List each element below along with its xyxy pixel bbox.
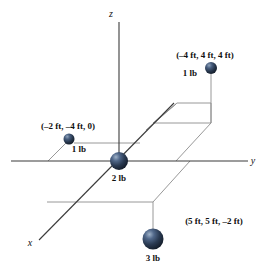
weight-label-left: 1 lb	[72, 144, 86, 154]
construction-line-diagonal-left	[48, 143, 66, 161]
coord-label-lower-right: (5 ft, 5 ft, –2 ft)	[185, 216, 243, 226]
sphere-origin	[110, 152, 128, 170]
sphere-lower-right	[143, 229, 164, 250]
weight-label-lower-right: 3 lb	[146, 253, 160, 263]
y-axis-label: y	[250, 155, 256, 166]
figure-root: z y x (–4 ft, 4 ft, 4 ft) 1 lb (–2 ft, –…	[0, 0, 280, 274]
x-axis-label: x	[27, 237, 33, 248]
weight-label-upper-right: 1 lb	[183, 68, 197, 78]
construction-line-diagonal-upper-right-down	[176, 123, 211, 161]
coord-label-left: (–2 ft, –4 ft, 0)	[41, 121, 95, 131]
sphere-left	[64, 134, 75, 145]
z-axis-label: z	[108, 8, 113, 19]
construction-line-diagonal-lower-right-up	[153, 161, 190, 202]
coordinate-diagram: z y x (–4 ft, 4 ft, 4 ft) 1 lb (–2 ft, –…	[0, 0, 280, 274]
coord-label-upper-right: (–4 ft, 4 ft, 4 ft)	[176, 50, 234, 60]
weight-label-origin: 2 lb	[112, 173, 126, 183]
sphere-upper-right	[205, 62, 217, 74]
